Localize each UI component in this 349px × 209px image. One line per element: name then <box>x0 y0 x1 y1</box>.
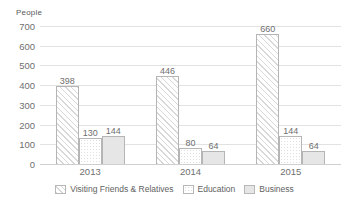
y-axis-tick-label: 500 <box>19 60 40 71</box>
bar[interactable]: 660 <box>256 34 279 164</box>
legend-label: Education <box>198 184 236 194</box>
x-axis-label-2015: 2015 <box>280 166 301 177</box>
y-axis-title: People <box>16 8 42 17</box>
bar-group: 66014464 <box>256 26 325 164</box>
bar[interactable]: 80 <box>179 148 202 164</box>
bar-value-label: 80 <box>185 138 195 148</box>
bar-value-label: 64 <box>208 141 218 151</box>
legend-swatch-icon <box>244 185 255 194</box>
chart-legend: Visiting Friends & RelativesEducationBus… <box>0 184 349 194</box>
bar-value-label: 130 <box>83 128 98 138</box>
gridline-0: 0 <box>40 164 341 165</box>
bar-chart: People 0100200300400500600700 3981301444… <box>0 0 349 209</box>
legend-label: Visiting Friends & Relatives <box>70 184 173 194</box>
bar-value-label: 398 <box>60 76 75 86</box>
bar-group: 398130144 <box>56 26 125 164</box>
bar[interactable]: 64 <box>302 151 325 164</box>
plot-area: 0100200300400500600700 39813014444680646… <box>40 26 341 164</box>
bar[interactable]: 398 <box>56 86 79 164</box>
legend-swatch-icon <box>55 185 66 194</box>
y-axis-tick-label: 400 <box>19 80 40 91</box>
y-axis-tick-label: 100 <box>19 139 40 150</box>
y-axis-tick-label: 200 <box>19 119 40 130</box>
legend-item[interactable]: Visiting Friends & Relatives <box>55 184 173 194</box>
bar-value-label: 660 <box>260 24 275 34</box>
x-axis-labels: 201320142015 <box>40 166 341 180</box>
y-axis-tick-label: 700 <box>19 21 40 32</box>
bar[interactable]: 446 <box>156 76 179 164</box>
bar-group: 4468064 <box>156 26 225 164</box>
bar-value-label: 144 <box>106 126 121 136</box>
bar[interactable]: 144 <box>102 136 125 164</box>
y-axis-tick-label: 300 <box>19 99 40 110</box>
legend-label: Business <box>259 184 294 194</box>
bar-value-label: 144 <box>283 126 298 136</box>
bar-value-label: 446 <box>160 66 175 76</box>
x-axis-label-2014: 2014 <box>180 166 201 177</box>
legend-item[interactable]: Business <box>244 184 294 194</box>
bar-series-container: 398130144446806466014464 <box>40 26 341 164</box>
bar[interactable]: 144 <box>279 136 302 164</box>
x-axis-label-2013: 2013 <box>80 166 101 177</box>
legend-item[interactable]: Education <box>183 184 236 194</box>
legend-swatch-icon <box>183 185 194 194</box>
bar[interactable]: 130 <box>79 138 102 164</box>
y-axis-tick-label: 600 <box>19 40 40 51</box>
bar-value-label: 64 <box>309 141 319 151</box>
bar[interactable]: 64 <box>202 151 225 164</box>
y-axis-tick-label: 0 <box>30 159 40 170</box>
